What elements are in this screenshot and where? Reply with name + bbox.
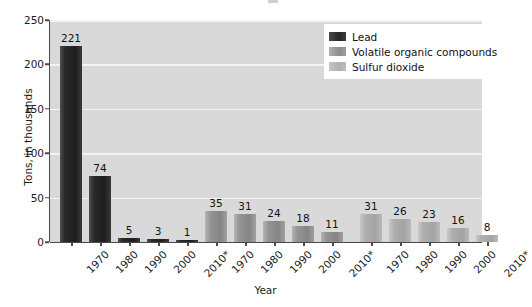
y-axis-tick-mark <box>45 152 49 154</box>
x-axis-tick-mark <box>429 242 431 246</box>
x-axis-tick-label: 1970 <box>384 248 411 275</box>
x-axis-tick-mark <box>216 242 218 246</box>
bar <box>476 235 498 242</box>
x-axis-tick-mark <box>400 242 402 246</box>
x-axis-tick-label: 2000 <box>171 248 198 275</box>
x-axis-tick-mark <box>71 242 73 246</box>
y-axis-tick-label: 0 <box>0 236 44 248</box>
grid-line <box>50 109 482 111</box>
x-axis-tick-label: 1980 <box>413 248 440 275</box>
bar-value-label: 8 <box>470 221 504 233</box>
x-axis-tick-mark <box>158 242 160 246</box>
legend: LeadVolatile organic compoundsSulfur dio… <box>324 24 504 79</box>
x-axis-tick-mark <box>245 242 247 246</box>
legend-swatch <box>329 62 346 71</box>
bar <box>89 176 111 242</box>
x-axis-tick-label: 2000 <box>316 248 343 275</box>
y-axis-label: Tons, in thousands <box>22 57 34 217</box>
grid-line <box>50 153 482 155</box>
x-axis-tick-label: 2000 <box>471 248 498 275</box>
legend-item: Lead <box>329 29 497 44</box>
legend-label: Volatile organic compounds <box>352 46 497 58</box>
x-axis-tick-label: 2010* <box>201 248 232 279</box>
x-axis-tick-label: 2010* <box>346 248 377 279</box>
x-axis-tick-mark <box>371 242 373 246</box>
bar-value-label: 11 <box>315 218 349 230</box>
x-axis-tick-label: 1990 <box>442 248 469 275</box>
x-axis-tick-label: 2010* <box>501 248 532 279</box>
grid-line <box>50 20 482 22</box>
x-axis-tick-mark <box>129 242 131 246</box>
x-axis-tick-label: 1970 <box>229 248 256 275</box>
x-axis-label: Year <box>0 284 499 296</box>
bar <box>360 214 382 242</box>
x-axis-label-text: Year <box>254 284 276 296</box>
bar <box>447 228 469 242</box>
x-axis-tick-label: 1970 <box>84 248 111 275</box>
y-axis-tick-mark <box>45 241 49 243</box>
x-axis-tick-mark <box>332 242 334 246</box>
x-axis-tick-mark <box>187 242 189 246</box>
bar <box>321 232 343 242</box>
y-axis-tick-mark <box>45 108 49 110</box>
x-axis-tick-mark <box>487 242 489 246</box>
bar-value-label: 74 <box>83 162 117 174</box>
legend-item: Sulfur dioxide <box>329 59 497 74</box>
bar <box>205 211 227 242</box>
x-axis-tick-mark <box>274 242 276 246</box>
x-axis-tick-mark <box>458 242 460 246</box>
bar <box>389 219 411 242</box>
legend-label: Lead <box>352 31 377 43</box>
cropped-title-remnant <box>268 0 278 3</box>
bar <box>292 226 314 242</box>
bar-value-label: 221 <box>54 32 88 44</box>
y-axis-tick-mark <box>45 64 49 66</box>
x-axis-tick-label: 1990 <box>142 248 169 275</box>
y-axis-tick-mark <box>45 197 49 199</box>
legend-label: Sulfur dioxide <box>352 61 424 73</box>
y-axis-tick-mark <box>45 19 49 21</box>
legend-swatch <box>329 32 346 41</box>
bar <box>234 214 256 242</box>
bar <box>263 221 285 242</box>
legend-swatch <box>329 47 346 56</box>
x-axis-tick-label: 1990 <box>287 248 314 275</box>
x-axis-tick-label: 1980 <box>113 248 140 275</box>
x-axis-tick-label: 1980 <box>258 248 285 275</box>
legend-item: Volatile organic compounds <box>329 44 497 59</box>
bar <box>418 222 440 242</box>
x-axis-tick-mark <box>303 242 305 246</box>
grid-line <box>50 198 482 200</box>
bar-value-label: 1 <box>170 226 204 238</box>
y-axis-tick-label: 250 <box>0 14 44 26</box>
bar <box>60 46 82 242</box>
x-axis-tick-mark <box>100 242 102 246</box>
